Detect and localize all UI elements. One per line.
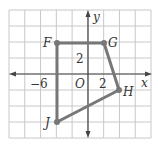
x-axis-label: x (141, 76, 148, 90)
point-label-h: H (122, 85, 134, 99)
tick-label-x-neg6: −6 (30, 77, 48, 91)
vertex-h (116, 87, 122, 93)
x-axis-left-arrow-icon (9, 72, 16, 77)
vertex-j (54, 119, 60, 125)
tick-label-x-2: 2 (99, 77, 107, 91)
y-axis-down-arrow-icon (86, 131, 91, 138)
tick-label-y-2: 2 (76, 52, 84, 66)
origin-label: O (75, 77, 85, 91)
vertex-f (54, 40, 60, 46)
y-axis-up-arrow-icon (86, 10, 91, 17)
point-label-f: F (42, 36, 52, 50)
y-axis-label: y (92, 10, 100, 24)
coordinate-plane: y x O −6 2 2 F G H J (0, 0, 158, 146)
vertex-g (101, 40, 107, 46)
point-label-j: J (42, 116, 51, 130)
x-axis (9, 72, 152, 77)
point-label-g: G (108, 36, 118, 50)
